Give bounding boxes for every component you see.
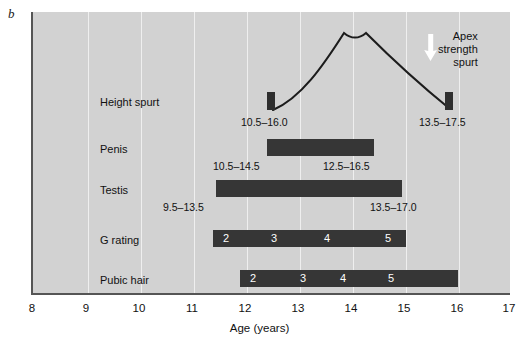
xtick-9: 9 bbox=[83, 302, 89, 314]
apex-annot-line-3: spurt bbox=[438, 56, 478, 69]
xtick-10: 10 bbox=[133, 302, 146, 314]
row-label-penis: Penis bbox=[100, 143, 128, 155]
testis-start-range: 9.5–13.5 bbox=[163, 201, 204, 213]
gridline-10 bbox=[141, 12, 142, 293]
pubic-hair-stage-4: 4 bbox=[340, 272, 346, 284]
bar-penis bbox=[267, 139, 374, 156]
plot-area: Height spurt 10.5–16.0 13.5–17.5 Apex st… bbox=[31, 12, 510, 295]
gridline-15 bbox=[406, 12, 407, 293]
xtick-16: 16 bbox=[451, 302, 464, 314]
row-label-g-rating: G rating bbox=[100, 234, 139, 246]
g-rating-stage-4: 4 bbox=[324, 232, 330, 244]
xtick-8: 8 bbox=[29, 302, 35, 314]
xtick-14: 14 bbox=[345, 302, 358, 314]
pubic-hair-stage-5: 5 bbox=[388, 272, 394, 284]
xtick-17: 17 bbox=[503, 302, 516, 314]
down-arrow-icon bbox=[423, 34, 439, 62]
height-spurt-marker-start bbox=[267, 92, 275, 110]
panel-letter: b bbox=[8, 6, 15, 22]
apex-strength-spurt-annotation: Apex strength spurt bbox=[438, 30, 478, 69]
row-label-testis: Testis bbox=[100, 184, 128, 196]
height-spurt-end-range: 13.5–17.5 bbox=[419, 116, 466, 128]
penis-start-range: 10.5–14.5 bbox=[213, 160, 260, 172]
apex-annot-line-1: Apex bbox=[438, 30, 478, 43]
xtick-12: 12 bbox=[239, 302, 252, 314]
g-rating-stage-2: 2 bbox=[223, 232, 229, 244]
bar-pubic-hair: 2 3 4 5 bbox=[240, 270, 458, 287]
testis-end-range: 13.5–17.0 bbox=[370, 201, 417, 213]
penis-end-range: 12.5–16.5 bbox=[323, 160, 370, 172]
row-label-pubic-hair: Pubic hair bbox=[100, 274, 149, 286]
height-spurt-start-range: 10.5–16.0 bbox=[241, 116, 288, 128]
pubic-hair-stage-2: 2 bbox=[250, 272, 256, 284]
pubic-hair-stage-3: 3 bbox=[300, 272, 306, 284]
xtick-13: 13 bbox=[292, 302, 305, 314]
apex-annot-line-2: strength bbox=[438, 43, 478, 56]
row-label-height-spurt: Height spurt bbox=[100, 96, 159, 108]
gridline-11 bbox=[194, 12, 195, 293]
gridline-9 bbox=[88, 12, 89, 293]
g-rating-stage-3: 3 bbox=[271, 232, 277, 244]
bar-g-rating: 2 3 4 5 bbox=[213, 230, 406, 247]
xtick-15: 15 bbox=[398, 302, 411, 314]
bar-testis bbox=[216, 180, 402, 197]
figure-panel: b Height spurt 10.5–16.0 13.5–17.5 Apex … bbox=[0, 0, 519, 343]
gridline-12 bbox=[247, 12, 248, 293]
height-spurt-marker-end bbox=[445, 92, 453, 110]
x-axis-title: Age (years) bbox=[0, 322, 519, 334]
xtick-11: 11 bbox=[186, 302, 198, 314]
g-rating-stage-5: 5 bbox=[385, 232, 391, 244]
